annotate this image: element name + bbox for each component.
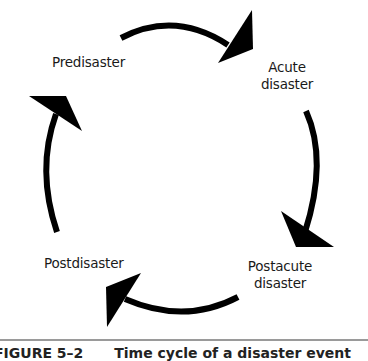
arrow-postacute-to-post-icon [106,273,238,327]
caption-divider [0,339,368,341]
stage-label-postacute: Postacute disaster [240,258,320,292]
stage-label-postacute-line2: disaster [240,275,320,292]
figure-caption: FIGURE 5–2 Time cycle of a disaster even… [0,345,351,361]
arrow-pre-to-acute-icon [121,10,253,63]
arrow-post-to-pre-icon [29,96,82,232]
stage-label-acute-line2: disaster [252,76,322,93]
arrow-acute-to-postacute-icon [281,111,334,247]
stage-label-postdisaster: Postdisaster [44,255,124,272]
figure-title: Time cycle of a disaster event [114,345,351,361]
figure-number: FIGURE 5–2 [0,345,83,361]
stage-label-acute-line1: Acute [252,59,322,76]
stage-label-acute: Acute disaster [252,59,322,93]
stage-label-predisaster: Predisaster [52,54,125,71]
stage-label-postacute-line1: Postacute [240,258,320,275]
